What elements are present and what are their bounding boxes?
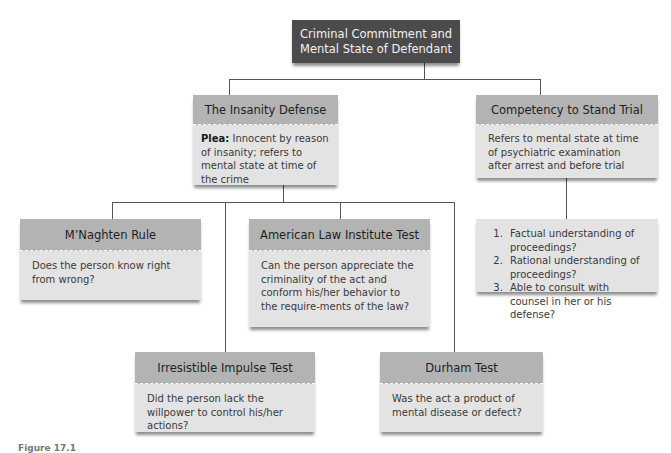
mnaghten-rule-title: M’Naghten Rule (20, 219, 201, 251)
insanity-defense-node: The Insanity Defense Plea: Innocent by r… (193, 95, 338, 185)
root-title-line2: Mental State of Defendant (300, 42, 452, 57)
durham-test-title: Durham Test (380, 352, 543, 384)
ali-test-title: American Law Institute Test (249, 219, 430, 251)
irresistible-impulse-node: Irresistible Impulse Test Did the person… (135, 352, 315, 432)
connector-root-down (424, 63, 425, 79)
connector-to-irresistible (225, 202, 226, 352)
competency-title: Competency to Stand Trial (476, 95, 658, 125)
root-node: Criminal Commitment and Mental State of … (292, 20, 460, 63)
connector-tests-bar (112, 202, 455, 203)
insanity-defense-title: The Insanity Defense (193, 95, 338, 125)
connector-level1-bar (229, 79, 541, 80)
plea-label: Plea: (201, 133, 229, 144)
competency-criteria-list: Factual understanding of proceedings? Ra… (484, 227, 650, 322)
connector-to-ali (340, 202, 341, 219)
ali-test-question: Can the person appreciate the criminalit… (249, 251, 430, 321)
insanity-defense-description: Plea: Innocent by reason of insanity; re… (193, 125, 338, 193)
ali-test-node: American Law Institute Test Can the pers… (249, 219, 430, 327)
competency-description: Refers to mental state at time of psychi… (476, 125, 658, 180)
irresistible-impulse-title: Irresistible Impulse Test (135, 352, 315, 384)
criteria-item: Able to consult with counsel in her or h… (506, 281, 650, 322)
connector-to-mnaghten (112, 202, 113, 219)
mnaghten-rule-node: M’Naghten Rule Does the person know righ… (20, 219, 201, 300)
figure-caption: Figure 17.1 (18, 443, 76, 453)
competency-criteria-node: Factual understanding of proceedings? Ra… (476, 219, 658, 292)
connector-to-durham (454, 202, 455, 352)
mnaghten-rule-question: Does the person know right from wrong? (20, 251, 201, 294)
durham-test-question: Was the act a product of mental disease … (380, 384, 543, 427)
irresistible-impulse-question: Did the person lack the willpower to con… (135, 384, 315, 441)
connector-to-insanity (229, 79, 230, 95)
competency-node: Competency to Stand Trial Refers to ment… (476, 95, 658, 178)
criteria-item: Factual understanding of proceedings? (506, 227, 650, 254)
connector-competency-down (566, 178, 567, 219)
connector-to-competency (540, 79, 541, 95)
root-title-line1: Criminal Commitment and (300, 27, 452, 42)
criteria-item: Rational understanding of proceedings? (506, 254, 650, 281)
durham-test-node: Durham Test Was the act a product of men… (380, 352, 543, 432)
